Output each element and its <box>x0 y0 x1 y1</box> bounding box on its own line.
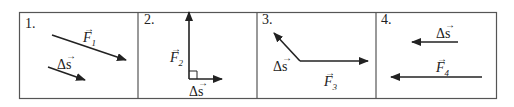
displacement-label-2: →Δs <box>189 84 203 100</box>
vector-arrow-icon: → <box>66 50 76 61</box>
displacement-label-4: →Δs <box>436 26 450 42</box>
vector-arrow-icon: → <box>282 52 292 63</box>
panel-1-number: 1. <box>25 17 36 31</box>
force-label-4: →F4 <box>436 60 449 78</box>
right-angle-marker <box>189 71 197 79</box>
vector-arrow-icon: → <box>445 19 455 30</box>
vector-arrow-icon: → <box>84 23 94 34</box>
force-label-3: →F3 <box>324 74 337 92</box>
vector-arrow-icon: → <box>198 77 208 88</box>
vector-arrow-icon: → <box>437 53 447 64</box>
panel-3-number: 3. <box>262 13 273 27</box>
vector-arrow-icon: → <box>325 67 335 78</box>
force-label-2: →F2 <box>170 50 183 68</box>
displacement-label-1: →Δs <box>57 57 71 73</box>
panel-4-number: 4. <box>381 13 392 27</box>
force-label-1: →F1 <box>83 30 96 48</box>
vector-arrow-icon: → <box>171 43 181 54</box>
panel-2-number: 2. <box>144 13 155 27</box>
displacement-label-3: →Δs <box>273 59 287 75</box>
